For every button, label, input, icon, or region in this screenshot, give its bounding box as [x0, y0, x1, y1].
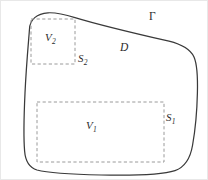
label-outer-boundary-gamma: Γ	[149, 11, 156, 23]
label-surface-s2-subscript: 2	[84, 58, 88, 67]
diagram-svg	[1, 1, 208, 180]
label-volume-v2-base: V	[45, 31, 52, 43]
label-surface-s1-base: S	[166, 111, 172, 123]
label-surface-s2-base: S	[78, 52, 84, 64]
label-volume-v2: V2	[45, 32, 55, 43]
label-domain-d: D	[120, 42, 128, 54]
label-volume-v1: V1	[86, 120, 96, 131]
label-surface-s1: S1	[166, 112, 175, 123]
label-volume-v1-subscript: 1	[93, 125, 97, 134]
figure-canvas: Γ D V2 S2 V1 S1	[0, 0, 208, 180]
label-volume-v1-base: V	[86, 119, 93, 131]
label-volume-v2-subscript: 2	[52, 37, 56, 46]
label-surface-s2: S2	[78, 53, 87, 64]
label-surface-s1-subscript: 1	[172, 117, 176, 126]
